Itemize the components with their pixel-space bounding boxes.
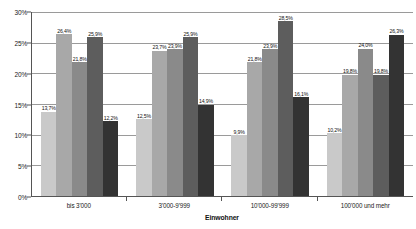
y-axis-tick-label: 0% — [18, 194, 27, 201]
bar[interactable]: 28,5% — [278, 21, 294, 196]
y-axis-tick-label: 15% — [15, 101, 27, 108]
bar[interactable]: 16,1% — [293, 97, 309, 196]
bar-group: 10,2%19,8%24,0%19,8%26,3% — [318, 12, 413, 196]
bar-slot: 21,8% — [72, 12, 88, 196]
bar-slot: 9,9% — [231, 12, 247, 196]
bar-slot: 13,7% — [41, 12, 57, 196]
bar-value-label: 23,7% — [152, 44, 166, 50]
x-axis-category-label: 3'000-9'999 — [127, 197, 223, 215]
bar[interactable]: 23,7% — [152, 51, 168, 196]
bar[interactable]: 19,8% — [373, 75, 389, 196]
bar-value-label: 21,8% — [248, 56, 262, 62]
bar-value-label: 14,9% — [199, 98, 213, 104]
bar-value-label: 24,0% — [358, 42, 372, 48]
y-axis-tick-label: 5% — [18, 163, 27, 170]
bar-value-label: 28,5% — [279, 15, 293, 21]
x-axis-category-label: 10'000-99'999 — [222, 197, 318, 215]
x-axis: bis 3'0003'000-9'99910'000-99'999100'000… — [31, 197, 413, 215]
bar-value-label: 23,9% — [168, 43, 182, 49]
x-axis-title: Einwohner — [31, 214, 413, 221]
bar[interactable]: 21,8% — [72, 62, 88, 196]
bar-value-label: 9,9% — [234, 129, 245, 135]
y-axis-tick-label: 20% — [15, 70, 27, 77]
bar-slot: 26,4% — [56, 12, 72, 196]
bar-slot: 23,9% — [262, 12, 278, 196]
bar-slot: 14,9% — [198, 12, 214, 196]
bar-slot: 21,8% — [247, 12, 263, 196]
bar-slot: 16,1% — [293, 12, 309, 196]
bar-slot: 24,0% — [358, 12, 374, 196]
bar-slot: 12,5% — [136, 12, 152, 196]
bar-slot: 19,8% — [342, 12, 358, 196]
bar[interactable]: 25,9% — [87, 37, 103, 196]
bar-value-label: 19,8% — [374, 68, 388, 74]
bar-group: 12,5%23,7%23,9%25,9%14,9% — [127, 12, 222, 196]
bar[interactable]: 23,9% — [262, 49, 278, 196]
bar[interactable]: 23,9% — [167, 49, 183, 196]
bar[interactable]: 26,4% — [56, 34, 72, 196]
bar[interactable]: 14,9% — [198, 105, 214, 196]
bar-slot: 25,9% — [87, 12, 103, 196]
bar-value-label: 16,1% — [294, 91, 308, 97]
y-axis-tick-label: 10% — [15, 132, 27, 139]
y-axis: 0%5%10%15%20%25%30% — [0, 12, 31, 197]
plot-area: 13,7%26,4%21,8%25,9%12,2%12,5%23,7%23,9%… — [31, 12, 413, 197]
bar[interactable]: 12,5% — [136, 119, 152, 196]
bar[interactable]: 10,2% — [327, 133, 343, 196]
bar-slot: 25,9% — [183, 12, 199, 196]
bar[interactable]: 13,7% — [41, 112, 57, 196]
y-axis-tick-label: 30% — [15, 9, 27, 16]
x-axis-category-label: 100'000 und mehr — [318, 197, 414, 215]
bar-value-label: 25,9% — [183, 31, 197, 37]
bar[interactable]: 21,8% — [247, 62, 263, 196]
bar-group: 9,9%21,8%23,9%28,5%16,1% — [223, 12, 318, 196]
bar-slot: 19,8% — [373, 12, 389, 196]
bar-chart: 0%5%10%15%20%25%30% 13,7%26,4%21,8%25,9%… — [0, 0, 416, 229]
bar-slot: 12,2% — [103, 12, 119, 196]
bar-slot: 28,5% — [278, 12, 294, 196]
bar[interactable]: 9,9% — [231, 135, 247, 196]
bar[interactable]: 26,3% — [389, 35, 405, 196]
y-axis-tick-label: 25% — [15, 39, 27, 46]
bar-slot: 23,9% — [167, 12, 183, 196]
bar-value-label: 26,4% — [57, 28, 71, 34]
bar-slot: 26,3% — [389, 12, 405, 196]
bar-value-label: 25,9% — [88, 31, 102, 37]
bar-slot: 23,7% — [152, 12, 168, 196]
bar-value-label: 13,7% — [42, 105, 56, 111]
bar[interactable]: 19,8% — [342, 75, 358, 196]
bar-group: 13,7%26,4%21,8%25,9%12,2% — [32, 12, 127, 196]
bar-value-label: 12,5% — [137, 113, 151, 119]
bar-value-label: 12,2% — [104, 115, 118, 121]
bar[interactable]: 12,2% — [103, 121, 119, 196]
bar-value-label: 19,8% — [343, 68, 357, 74]
bar-value-label: 26,3% — [389, 28, 403, 34]
bar-value-label: 23,9% — [263, 43, 277, 49]
bar[interactable]: 25,9% — [183, 37, 199, 196]
bar-value-label: 21,8% — [73, 56, 87, 62]
bar[interactable]: 24,0% — [358, 49, 374, 196]
bar-slot: 10,2% — [327, 12, 343, 196]
bar-value-label: 10,2% — [327, 127, 341, 133]
x-axis-category-label: bis 3'000 — [31, 197, 127, 215]
bar-groups: 13,7%26,4%21,8%25,9%12,2%12,5%23,7%23,9%… — [32, 12, 413, 196]
